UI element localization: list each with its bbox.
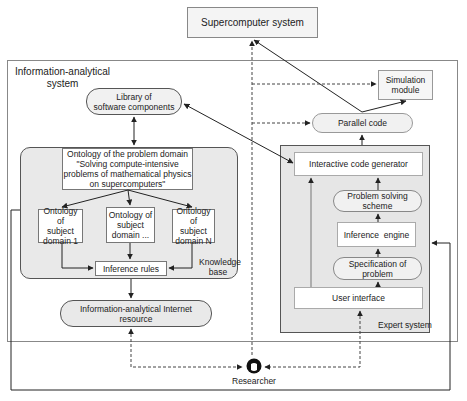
parallel-code-node: Parallel code <box>312 113 413 133</box>
ontology-main-line3: problems of mathematical physics <box>63 169 191 179</box>
researcher-icon <box>245 357 263 375</box>
specification-line1: Specification of <box>349 259 407 269</box>
ontology-problem-domain-node: Ontology of the problem domain "Solving … <box>62 148 193 190</box>
knowledge-base-label: Knowledge base <box>199 257 237 277</box>
library-node: Library of software components <box>86 88 182 115</box>
specification-of-problem-node: Specification of problem <box>333 257 422 280</box>
info-system-title: Information-analytical system <box>15 66 110 90</box>
internet-resource-line1: Information-analytical Internet <box>80 304 192 314</box>
user-interface-node: User interface <box>294 287 423 309</box>
subdomain-n-line1: Ontology of <box>173 206 214 226</box>
researcher-label: Researcher <box>232 376 276 386</box>
library-line2: software components <box>94 102 175 112</box>
ontology-main-line4: on supercomputers" <box>63 179 191 189</box>
subdomain-1-line1: Ontology of <box>39 206 82 226</box>
internet-resource-node: Information-analytical Internet resource <box>60 300 212 327</box>
expert-system-label: Expert system <box>378 320 432 330</box>
knowledge-base-label-line2: base <box>199 267 237 277</box>
researcher-label-text: Researcher <box>232 376 276 386</box>
subdomain-n-line2: subject <box>173 226 214 236</box>
info-system-title-line1: Information-analytical <box>15 66 110 78</box>
supercomputer-system-node: Supercomputer system <box>187 7 318 38</box>
problem-solving-line2: scheme <box>347 201 407 211</box>
user-interface-label: User interface <box>332 293 385 303</box>
subdomain-n-line3: domain N <box>173 236 214 246</box>
subdomain-1-line3: domain 1 <box>39 236 82 246</box>
subdomain-2-line2: subject <box>109 220 152 230</box>
internet-resource-line2: resource <box>80 314 192 324</box>
problem-solving-line1: Problem solving <box>347 191 407 201</box>
simulation-line2: module <box>386 85 426 95</box>
simulation-line1: Simulation <box>386 75 426 85</box>
subdomain-2-line1: Ontology of <box>109 210 152 220</box>
inference-engine-node: Inference engine <box>337 222 416 247</box>
inference-rules-node: Inference rules <box>95 261 167 276</box>
interactive-code-generator-node: Interactive code generator <box>294 152 423 176</box>
inference-rules-label: Inference rules <box>103 264 159 274</box>
ontology-subdomain-dots-node: Ontology of subject domain ... <box>106 207 155 243</box>
ontology-main-line1: Ontology of the problem domain <box>63 149 191 159</box>
ontology-main-line2: "Solving compute-intensive <box>63 159 191 169</box>
subdomain-1-line2: subject <box>39 226 82 236</box>
inference-engine-label: Inference engine <box>344 230 410 240</box>
code-generator-label: Interactive code generator <box>309 159 408 169</box>
parallel-code-label: Parallel code <box>338 118 387 128</box>
subdomain-2-line3: domain ... <box>109 230 152 240</box>
supercomputer-label: Supercomputer system <box>201 18 304 28</box>
library-line1: Library of <box>94 92 175 102</box>
simulation-module-node: Simulation module <box>378 70 433 100</box>
ontology-subdomain-1-node: Ontology of subject domain 1 <box>38 209 83 243</box>
knowledge-base-label-line1: Knowledge <box>199 257 237 267</box>
specification-line2: problem <box>349 269 407 279</box>
expert-system-label-text: Expert system <box>378 320 432 330</box>
problem-solving-scheme-node: Problem solving scheme <box>333 190 422 212</box>
ontology-subdomain-n-node: Ontology of subject domain N <box>172 209 215 243</box>
